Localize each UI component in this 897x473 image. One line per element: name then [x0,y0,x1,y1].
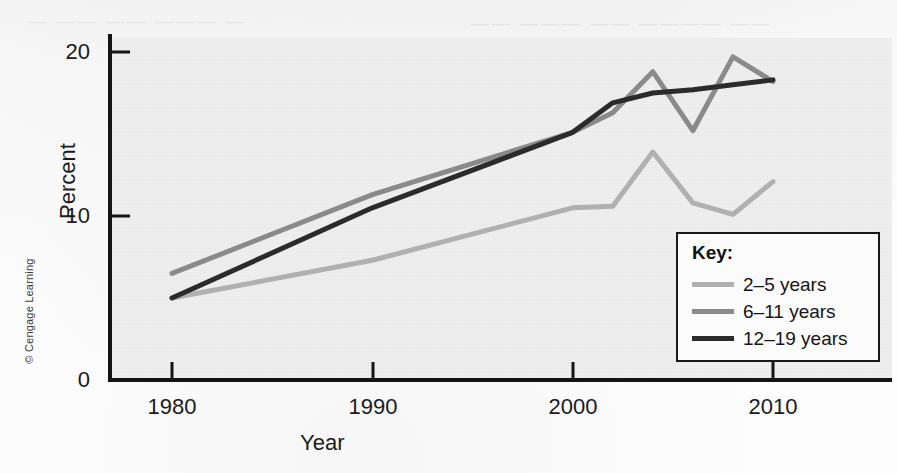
x-axis-title: Year [300,430,344,456]
legend-box: Key: 2–5 years 6–11 years 12–19 years [676,232,880,362]
figure-container: — —— —— ——— — —— ——— —— ———— —— © Cengag… [0,0,897,473]
legend-title: Key: [692,242,878,264]
copyright-credit: © Cengage Learning [23,246,35,376]
legend-swatch-2-5 [692,282,734,287]
legend-item-12-19: 12–19 years [692,325,878,352]
legend-item-6-11: 6–11 years [692,298,878,325]
x-tick-label-1980: 1980 [132,394,212,420]
legend-label-2-5: 2–5 years [743,274,826,296]
y-tick-label-20: 20 [44,39,90,65]
legend-swatch-12-19 [692,336,734,341]
legend-label-6-11: 6–11 years [743,301,836,323]
legend-swatch-6-11 [692,309,734,314]
y-tick-label-10: 10 [44,203,90,229]
page-bleed-text: —— ——— —— ———— —— [470,12,772,34]
x-tick-label-2010: 2010 [733,394,813,420]
y-axis-title: Percent [55,101,81,261]
x-tick-label-2000: 2000 [533,394,613,420]
x-tick-label-1990: 1990 [333,394,413,420]
legend-label-12-19: 12–19 years [743,328,848,350]
legend-item-2-5: 2–5 years [692,271,878,298]
y-tick-label-0: 0 [44,367,90,393]
page-bleed-text: — —— —— ——— — [28,10,246,32]
